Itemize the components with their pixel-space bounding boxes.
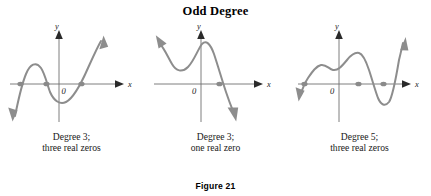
caption-line-degree: Degree 5; — [330, 131, 389, 142]
x-axis-arrowhead — [254, 80, 263, 88]
zero-marker-2 — [43, 82, 49, 87]
x-axis-arrowhead — [402, 80, 411, 88]
graph-degree3-one-zero: x y 0 — [146, 22, 285, 130]
y-axis-label: y — [196, 22, 201, 31]
graph-degree5-three-zeros: x y 0 — [290, 22, 429, 130]
x-axis-label: x — [127, 80, 132, 89]
figure-label: Figure 21 — [0, 181, 431, 191]
caption-line-zeros: one real zero — [191, 142, 241, 153]
zero-marker-2 — [355, 82, 361, 87]
caption-line-zeros: three real zeros — [42, 142, 101, 153]
curve-arrowhead-left — [156, 35, 167, 48]
zero-marker-1 — [301, 82, 307, 87]
y-axis-label: y — [334, 22, 339, 31]
graph-caption-3: Degree 5; three real zeros — [330, 131, 389, 154]
graph-panel-2: x y 0 Degree 3; one real zero — [144, 22, 287, 154]
curve-arrowhead-right — [228, 107, 239, 121]
graph-panel-1: x y 0 Degree 3; three real zeros — [0, 22, 143, 154]
polynomial-curve — [300, 43, 403, 105]
y-axis-label: y — [54, 22, 59, 31]
zero-marker-1 — [17, 82, 23, 87]
caption-line-zeros: three real zeros — [330, 142, 389, 153]
origin-label: 0 — [192, 86, 197, 96]
zero-marker-3 — [78, 82, 84, 87]
x-axis-arrowhead — [115, 80, 124, 88]
x-axis-label: x — [414, 80, 419, 89]
y-axis-arrowhead — [55, 30, 63, 39]
graph-caption-1: Degree 3; three real zeros — [42, 131, 101, 154]
curve-arrowhead-right — [400, 37, 408, 51]
graph-panels: x y 0 Degree 3; three real zeros — [0, 22, 431, 172]
polynomial-curve — [15, 41, 101, 116]
x-axis-label: x — [266, 80, 271, 89]
y-axis-arrowhead — [197, 30, 205, 39]
figure-title: Odd Degree — [0, 4, 431, 19]
graph-caption-2: Degree 3; one real zero — [191, 131, 241, 154]
zero-marker-1 — [216, 82, 222, 87]
zero-marker-3 — [380, 82, 386, 87]
graph-degree3-three-zeros: x y 0 — [2, 22, 141, 130]
graph-panel-3: x y 0 Degree 5; three real zeros — [288, 22, 431, 154]
origin-label: 0 — [62, 86, 67, 96]
y-axis-arrowhead — [335, 30, 343, 39]
origin-label: 0 — [330, 86, 335, 96]
polynomial-curve — [160, 42, 233, 111]
caption-line-degree: Degree 3; — [42, 131, 101, 142]
caption-line-degree: Degree 3; — [191, 131, 241, 142]
figure-container: Odd Degree x y 0 — [0, 0, 431, 196]
